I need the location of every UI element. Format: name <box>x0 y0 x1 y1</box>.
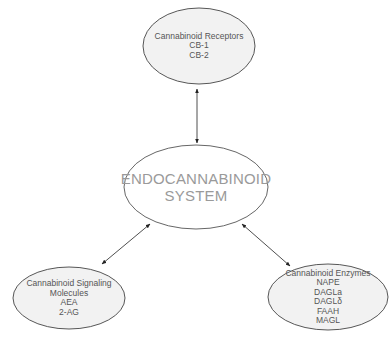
signaling-node-label: Cannabinoid Signaling Molecules AEA 2-AG <box>13 278 125 318</box>
arrow-center-signaling <box>102 224 150 264</box>
center-title-line-1: ENDOCANNABINOID <box>121 170 272 187</box>
arrow-center-enzymes <box>242 224 290 266</box>
center-title-line-2: SYSTEM <box>165 187 228 204</box>
receptors-node-label: Cannabinoid Receptors CB-1 CB-2 <box>143 24 255 68</box>
signaling-item: 2-AG <box>59 308 79 318</box>
center-node-label: ENDOCANNABINOID SYSTEM <box>124 165 268 209</box>
enzymes-item: MAGL <box>316 316 340 326</box>
enzymes-node-label: Cannabinoid Enzymes NAPE DAGLa DAGLδ FAA… <box>268 268 388 326</box>
receptors-item: CB-2 <box>189 51 208 61</box>
endocannabinoid-diagram: Cannabinoid Receptors CB-1 CB-2 ENDOCANN… <box>0 0 392 342</box>
